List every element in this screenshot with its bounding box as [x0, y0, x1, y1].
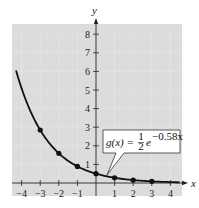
data-point: [75, 164, 80, 169]
x-tick-label: −3: [35, 188, 46, 199]
x-tick-label: 2: [131, 188, 136, 199]
equation-exponent: −0.58x: [152, 130, 183, 142]
equation-base: e: [146, 136, 151, 148]
x-tick-label: 1: [112, 188, 117, 199]
y-tick-label: 4: [85, 103, 90, 114]
y-tick-label: 1: [85, 159, 90, 170]
x-tick-label: −2: [53, 188, 64, 199]
data-point: [112, 175, 117, 180]
x-tick-label: −4: [16, 188, 27, 199]
plot-background: [12, 24, 182, 196]
y-tick-label: 7: [85, 47, 90, 58]
data-point: [149, 179, 154, 184]
function-graph: −4−3−2−1123412345678 g(x) = 12e−0.58x x …: [0, 0, 199, 208]
data-point: [38, 127, 43, 132]
x-axis-label: x: [190, 177, 196, 189]
y-tick-label: 8: [85, 29, 90, 40]
x-tick-label: 4: [168, 188, 173, 199]
x-tick-label: −1: [72, 188, 83, 199]
y-tick-label: 2: [85, 140, 90, 151]
fraction-denominator: 2: [138, 140, 144, 152]
data-point: [131, 177, 136, 182]
y-tick-label: 5: [85, 85, 90, 96]
data-point: [56, 151, 61, 156]
x-tick-label: 3: [149, 188, 154, 199]
equation-prefix: g(x) =: [106, 136, 134, 149]
y-axis-label: y: [91, 4, 97, 16]
y-tick-label: 3: [85, 122, 90, 133]
y-tick-label: 6: [85, 66, 90, 77]
data-point: [93, 171, 98, 176]
